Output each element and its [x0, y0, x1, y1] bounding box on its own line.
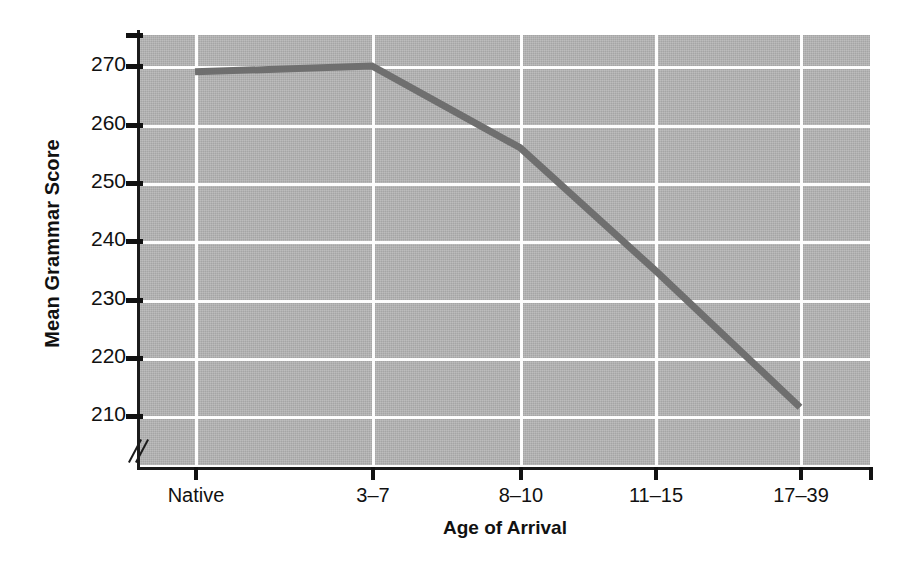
- y-tick-210: [126, 414, 143, 419]
- x-axis-title: Age of Arrival: [140, 517, 870, 539]
- x-tick-label-11-15: 11–15: [629, 484, 683, 507]
- x-tick-native: [194, 467, 198, 480]
- y-tick-250: [126, 181, 143, 186]
- x-tick-8-10: [519, 467, 523, 480]
- y-tick-label-260: 260: [62, 111, 126, 135]
- y-tick-top: [126, 33, 143, 38]
- y-tick-label-230: 230: [62, 286, 126, 310]
- plot-area: [140, 35, 870, 465]
- data-series-line: [140, 35, 870, 465]
- y-tick-230: [126, 298, 143, 303]
- x-axis-spine: [137, 467, 873, 470]
- y-tick-labels: 270 260 250 240 230 220 210: [52, 0, 126, 564]
- x-tick-label-3-7: 3–7: [356, 484, 389, 507]
- y-tick-270: [126, 64, 143, 69]
- y-tick-label-250: 250: [62, 169, 126, 193]
- x-tick-label-8-10: 8–10: [499, 484, 544, 507]
- y-tick-label-240: 240: [62, 227, 126, 251]
- y-tick-240: [126, 239, 143, 244]
- x-tick-11-15: [654, 467, 658, 480]
- x-tick-3-7: [371, 467, 375, 480]
- x-tick-label-native: Native: [168, 484, 225, 507]
- x-tick-label-17-39: 17–39: [773, 484, 829, 507]
- axis-break-icon: [128, 436, 150, 466]
- y-tick-label-220: 220: [62, 344, 126, 368]
- x-tick-17-39: [799, 467, 803, 480]
- y-tick-220: [126, 356, 143, 361]
- y-axis-spine: [137, 30, 140, 470]
- y-tick-260: [126, 123, 143, 128]
- y-tick-label-270: 270: [62, 52, 126, 76]
- y-tick-label-210: 210: [62, 402, 126, 426]
- x-tick-end: [869, 467, 873, 480]
- chart-figure: Mean Grammar Score 270 2: [0, 0, 919, 564]
